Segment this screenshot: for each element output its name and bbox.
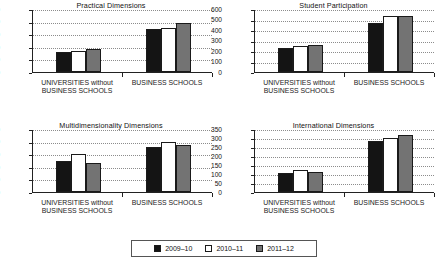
y-axis-tick — [251, 175, 254, 176]
y-axis-tick — [251, 130, 254, 131]
y-axis-tick-label: 50 — [195, 181, 222, 188]
y-axis-tick — [29, 168, 32, 169]
bar — [56, 161, 71, 192]
x-axis-category-label-line: BUSINESS SCHOOLS — [329, 79, 445, 87]
y-axis-tick — [29, 155, 32, 156]
gridline — [33, 10, 212, 11]
x-axis-category-label-line: BUSINESS SCHOOLS — [239, 207, 359, 215]
bar — [161, 28, 176, 72]
legend-item: 2011–12 — [256, 245, 294, 252]
y-axis-tick — [29, 60, 32, 61]
y-axis-tick — [251, 52, 254, 53]
bar — [71, 154, 86, 192]
legend-swatch-2011-12 — [256, 245, 263, 252]
legend-label: 2011–12 — [267, 245, 294, 252]
bar — [278, 173, 293, 192]
gridline — [33, 130, 212, 131]
y-axis-tick-label: 300 — [195, 136, 222, 143]
x-axis-category-label-line: BUSINESS SCHOOLS — [329, 199, 445, 207]
y-axis-tick — [29, 23, 32, 24]
plot-box — [32, 130, 212, 193]
x-axis-tick — [122, 73, 123, 77]
y-axis-tick — [251, 63, 254, 64]
bar — [176, 23, 191, 72]
bar — [308, 45, 323, 72]
x-axis-category-label: BUSINESS SCHOOLS — [329, 79, 445, 87]
x-axis-category-label-line: BUSINESS SCHOOLS — [17, 87, 137, 95]
bar — [368, 141, 383, 192]
y-axis-tick-label: 300 — [195, 38, 222, 45]
bar — [383, 16, 398, 72]
bar — [86, 49, 101, 72]
y-axis-tick — [251, 73, 254, 74]
x-axis-category-label: BUSINESS SCHOOLS — [107, 79, 227, 87]
gridline — [255, 10, 434, 11]
panel-title: International Dimensions — [222, 121, 445, 130]
y-axis-tick — [29, 180, 32, 181]
bar — [56, 52, 71, 72]
y-axis-tick-label: 0 — [195, 190, 222, 197]
y-axis-tick — [251, 139, 254, 140]
y-axis-tick — [29, 193, 32, 194]
y-axis-tick — [29, 143, 32, 144]
legend-label: 2009–10 — [165, 245, 192, 252]
chart-grid: Practical Dimensions 0100200300400500UNI… — [0, 0, 445, 236]
x-axis-tick — [344, 73, 345, 77]
x-axis-tick — [434, 73, 435, 77]
bar — [368, 23, 383, 72]
panel-student-participation: Student Participation 010020030040050060… — [222, 0, 445, 120]
y-axis-tick-label: 350 — [195, 127, 222, 134]
y-axis-tick-label: 200 — [195, 49, 222, 56]
x-axis-category-label-line: BUSINESS SCHOOLS — [17, 207, 137, 215]
plot-box — [254, 130, 434, 193]
y-axis-tick — [251, 157, 254, 158]
bar — [308, 172, 323, 192]
bar — [293, 170, 308, 192]
plot-box — [254, 10, 434, 73]
y-axis-tick-label: 400 — [195, 28, 222, 35]
y-axis-tick — [251, 184, 254, 185]
y-axis-tick-label: 250 — [195, 145, 222, 152]
y-axis-tick — [251, 31, 254, 32]
y-axis-tick-label: 100 — [195, 59, 222, 66]
gridline — [33, 143, 212, 144]
bar — [278, 48, 293, 72]
legend-swatch-2009-10 — [154, 245, 161, 252]
x-axis-tick — [434, 193, 435, 197]
y-axis-tick — [251, 10, 254, 11]
y-axis-tick-label: 600 — [195, 7, 222, 14]
bar — [146, 147, 161, 192]
plot-box — [32, 10, 212, 73]
panel-title: Multidimensionality Dimensions — [0, 121, 222, 130]
y-axis-tick-label: 150 — [195, 163, 222, 170]
y-axis-tick — [251, 166, 254, 167]
y-axis-tick — [251, 193, 254, 194]
y-axis-tick — [29, 130, 32, 131]
x-axis-category-label-line: BUSINESS SCHOOLS — [107, 79, 227, 87]
legend-item: 2009–10 — [154, 245, 192, 252]
legend-item: 2010–11 — [205, 245, 243, 252]
y-axis-tick — [251, 42, 254, 43]
y-axis-tick — [29, 10, 32, 11]
gridline — [255, 130, 434, 131]
bar — [398, 135, 413, 192]
panel-practical-dimensions: Practical Dimensions 0100200300400500UNI… — [0, 0, 222, 120]
bar — [398, 16, 413, 72]
legend-swatch-2010-11 — [205, 245, 212, 252]
bar — [383, 138, 398, 192]
y-axis-tick-label: 100 — [195, 172, 222, 179]
panel-multidimensionality-dimensions: Multidimensionality Dimensions 050100150… — [0, 120, 222, 236]
y-axis-tick-label: 500 — [195, 17, 222, 24]
y-axis-tick — [29, 48, 32, 49]
y-axis-tick — [251, 148, 254, 149]
bar — [146, 29, 161, 72]
bar — [161, 142, 176, 192]
y-axis-tick — [29, 73, 32, 74]
y-axis-tick-label: 0 — [195, 70, 222, 77]
bar — [71, 51, 86, 72]
y-axis-tick — [251, 21, 254, 22]
panel-title: Student Participation — [222, 1, 445, 10]
x-axis-category-label: BUSINESS SCHOOLS — [329, 199, 445, 207]
x-axis-category-label-line: BUSINESS SCHOOLS — [107, 199, 227, 207]
x-axis-category-label-line: BUSINESS SCHOOLS — [239, 87, 359, 95]
